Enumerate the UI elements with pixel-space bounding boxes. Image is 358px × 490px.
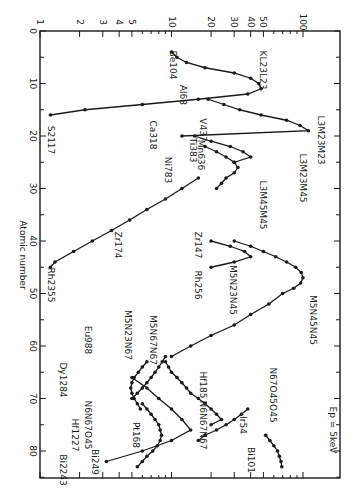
curve-label: N6N67O45	[83, 400, 93, 449]
curve-labels: KL23L23L3M23M23L3M23M45L3M45M45M5N23N45M…	[46, 51, 326, 486]
series-hf1227-branch	[129, 360, 149, 411]
curve-label: Eu988	[83, 326, 93, 355]
curve-label: Bi2243	[58, 454, 68, 486]
curve-label: M5N23N67	[123, 310, 133, 360]
energy-annotation: Ep = 5keV	[328, 407, 338, 455]
curve-label: N67O45O45	[268, 367, 278, 422]
curve-label: Pt168	[131, 422, 141, 448]
y-tick-label: 1	[35, 19, 45, 25]
curve-label: Ir54	[238, 416, 248, 434]
y-tick-label: 50	[258, 16, 268, 28]
x-tick-label: 70	[28, 393, 38, 405]
curve-label: Hf1227	[70, 419, 80, 452]
x-tick-label: 0	[28, 28, 38, 34]
auger-yield-chart: 01020304050607080123451020304050100 KL23…	[0, 0, 358, 490]
y-tick-label: 40	[246, 16, 256, 28]
y-tick-label: 2	[75, 19, 85, 25]
x-tick-label: 40	[28, 235, 38, 247]
curve-label: Al68	[178, 85, 188, 105]
curve-label: L3M23M45	[298, 153, 308, 202]
y-tick-label: 30	[229, 16, 239, 28]
curve-label: Ni783	[163, 157, 173, 183]
axis-ticks: 01020304050607080123451020304050100	[28, 13, 340, 478]
curve-label: Hf185	[198, 371, 208, 398]
curve-label: Dy1284	[58, 362, 68, 397]
curve-label: Be104	[168, 51, 178, 80]
y-tick-label: 3	[98, 19, 108, 25]
y-tick-label: 100	[298, 13, 308, 30]
curve-label: KL23L23	[258, 51, 268, 90]
x-tick-label: 80	[28, 445, 38, 457]
x-tick-label: 50	[28, 288, 38, 300]
x-tick-label: 20	[28, 130, 38, 142]
curve-label: V437	[198, 118, 208, 141]
curve-label: S2117	[46, 126, 56, 155]
series-diagonal-ni-rh-	[49, 176, 201, 269]
curve-label: Zr174	[113, 231, 123, 258]
curve-label: Zr147	[193, 231, 203, 258]
curve-label: Bi249	[90, 449, 100, 475]
curve-label: L3M23M23	[316, 115, 326, 164]
series-m5n67n67	[164, 360, 224, 427]
curve-label: Rh256	[193, 270, 203, 299]
curve-label: L3M45M45	[258, 180, 268, 229]
y-tick-label: 10	[167, 16, 177, 28]
x-axis-label: Atomic number	[18, 220, 28, 290]
curve-label: Bi101	[246, 447, 256, 473]
y-tick-label: 5	[127, 19, 137, 25]
curve-label: Mn636	[196, 140, 206, 171]
series-n67o45o45	[264, 433, 284, 468]
x-tick-label: 10	[28, 78, 38, 90]
curve-label: M5N45N45	[308, 295, 318, 345]
series-n67n67-dy-bi-	[105, 376, 193, 464]
series-l3m45m45	[203, 145, 239, 191]
y-tick-label: 20	[206, 16, 216, 28]
x-tick-label: 60	[28, 340, 38, 352]
y-tick-label: 4	[114, 19, 124, 25]
curve-label: Ca318	[148, 121, 158, 150]
curve-label: Rh2355	[46, 268, 56, 303]
curve-label: M5N23N45	[228, 265, 238, 315]
x-tick-label: 30	[28, 183, 38, 195]
curve-label: N6N67N67	[198, 401, 208, 450]
curve-label: M5N67N67	[148, 315, 158, 365]
